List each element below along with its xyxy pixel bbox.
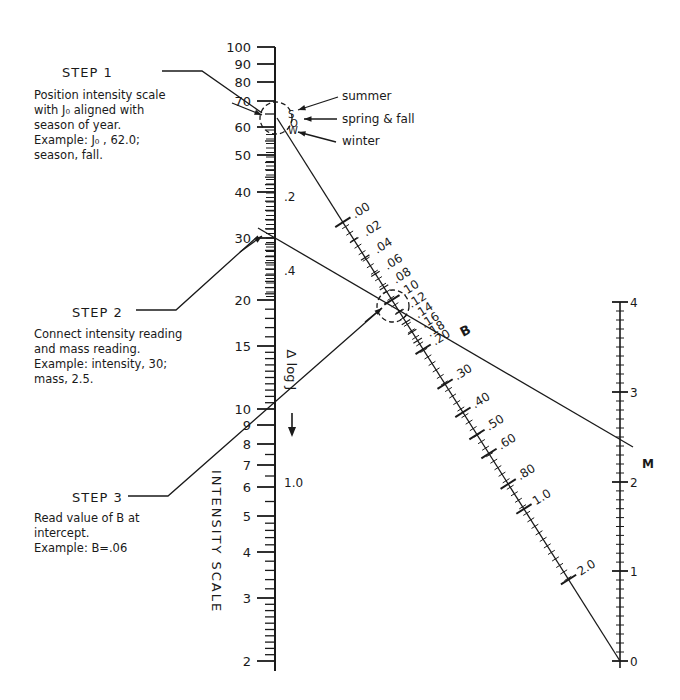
b-minor-tick [367,264,374,268]
b-minor-tick [511,492,518,496]
winter-arrow-icon-head [298,131,306,136]
b-minor-tick [375,277,382,281]
intensity-tick-label: 50 [234,148,251,163]
b-minor-tick [359,251,366,255]
step-3-leader [128,308,382,496]
spring-fall-arrow-icon-head [304,116,312,121]
b-minor-tick [495,466,502,470]
season-letter-w: W [288,125,298,136]
b-minor-tick [532,524,539,528]
b-minor-tick [416,342,423,346]
b-tick [481,449,496,459]
m-tick-label: 3 [630,386,638,400]
b-minor-tick [536,531,543,535]
b-minor-tick [560,570,567,574]
b-tick-label: .50 [483,412,507,434]
b-tick-label: .00 [349,199,373,221]
b-tick [561,575,576,585]
b-tick [380,285,388,290]
b-tick [335,217,350,227]
delta-log-j-label: .2 [284,190,295,204]
b-minor-tick [437,374,444,378]
intensity-tick-label: 10 [234,402,251,417]
b-tick-label: .30 [451,361,475,383]
b-minor-tick [503,479,510,483]
b-scale-label: B [457,322,473,340]
b-minor-tick [540,537,547,541]
b-tick [455,407,470,417]
b-tick [350,238,358,243]
intensity-tick-label: 6 [243,480,251,495]
intensity-tick-label: 15 [234,339,251,354]
b-tick-label: .40 [469,389,493,411]
b-tick-label: .02 [360,217,384,239]
b-minor-tick [350,237,357,241]
b-minor-tick [355,244,362,248]
intensity-tick-label: 3 [243,591,251,606]
intensity-tick-label: 100 [226,40,251,55]
b-minor-tick [346,231,353,235]
summer-arrow-icon-head [298,105,306,110]
spring-fall-label: spring & fall [342,112,415,126]
b-minor-tick [507,485,514,489]
b-tick [416,345,431,355]
b-minor-tick [449,394,456,398]
b-minor-tick [342,224,349,228]
delta-log-j-label: .4 [284,264,295,278]
b-minor-tick [462,413,469,417]
b-minor-tick [457,407,464,411]
intensity-tick-label: 20 [234,293,251,308]
b-minor-tick [527,518,534,522]
m-tick-label: 2 [630,476,638,490]
nomogram: 1009080706050403020151098765432.2.41.0Δ … [0,0,680,700]
b-minor-tick [470,426,477,430]
b-minor-tick [548,550,555,554]
intensity-tick-label: 8 [243,437,251,452]
b-minor-tick [429,361,436,365]
b-minor-tick [445,387,452,391]
b-tick [501,479,516,489]
b-minor-tick [482,446,489,450]
b-minor-tick [490,459,497,463]
summer-label: summer [342,89,392,103]
b-tick-label: .04 [371,235,395,257]
intensity-tick-label: 40 [234,185,251,200]
b-minor-tick [425,355,432,359]
b-minor-tick [412,335,419,339]
intensity-tick-label: 5 [243,509,251,524]
m-tick-label: 1 [630,565,638,579]
b-minor-tick [544,544,551,548]
b-minor-tick [499,472,506,476]
b-minor-tick [363,257,370,261]
b-minor-tick [466,420,473,424]
example-isopleth [258,228,633,447]
b-minor-tick [433,368,440,372]
m-tick-label: 4 [630,296,638,310]
b-tick [402,319,410,324]
intensity-tick-label: 90 [234,57,251,72]
b-tick-label: .60 [495,431,519,453]
b-tick [469,430,484,440]
b-minor-tick [556,563,563,567]
b-minor-tick [371,270,378,274]
b-tick-label: 1.0 [530,486,554,508]
step-2-arrow-icon-head [254,236,262,243]
intensity-tick-label: 7 [243,458,251,473]
b-minor-tick [552,557,559,561]
b-tick [437,379,452,389]
m-tick-label: 0 [630,655,638,669]
b-tick-label: 2.0 [575,557,599,579]
intensity-tick-label: 2 [243,654,251,669]
b-minor-tick [523,511,530,515]
delta-log-j-label: 1.0 [284,476,303,490]
b-tick [413,338,421,343]
intensity-tick-label: 4 [243,545,251,560]
down-arrow-icon [288,427,296,437]
winter-label: winter [342,134,380,148]
b-minor-tick [453,400,460,404]
b-minor-tick [515,498,522,502]
intensity-tick-label: 80 [234,75,251,90]
intensity-tick-label: 9 [243,418,251,433]
b-tick-label: .80 [514,461,538,483]
m-scale-label: M [642,457,654,471]
